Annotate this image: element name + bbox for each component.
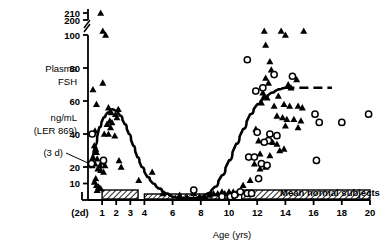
data-point-triangle <box>300 28 307 34</box>
chart-canvas: 1020406080100200210 123468101214161820 P… <box>0 0 388 245</box>
data-point-triangle <box>295 124 302 130</box>
data-point-circle <box>248 190 254 196</box>
three-days-annotation: (3 d) <box>43 147 63 158</box>
data-point-circle <box>267 131 273 137</box>
normal-subjects-label: Mean normal subjects <box>280 187 380 198</box>
data-point-triangle <box>115 106 122 112</box>
x-tick-label: 1 <box>99 207 105 218</box>
series-open-circle <box>88 57 371 200</box>
data-point-triangle <box>286 102 293 108</box>
data-point-triangle <box>93 101 100 107</box>
x-tick-label: 20 <box>365 207 376 218</box>
data-point-triangle <box>290 116 297 122</box>
data-point-triangle <box>297 117 304 123</box>
x-tick-label: 4 <box>142 207 148 218</box>
x-axis-ticks: 123468101214161820 <box>99 200 375 218</box>
data-point-triangle <box>135 177 142 183</box>
data-point-circle <box>100 157 106 163</box>
data-point-triangle <box>282 122 289 128</box>
data-point-circle <box>219 194 225 200</box>
data-point-circle <box>251 154 257 160</box>
x-tick-label: 18 <box>337 207 348 218</box>
data-point-circle <box>339 119 345 125</box>
x-tick-label: 14 <box>280 207 291 218</box>
data-point-triangle <box>111 132 118 138</box>
data-point-triangle <box>97 10 104 16</box>
data-point-circle <box>264 162 270 168</box>
data-point-triangle <box>275 93 282 99</box>
x-axis-title: Age (yrs) <box>213 229 252 240</box>
data-point-circle <box>253 88 259 94</box>
two-days-annotation: (2d) <box>71 207 88 218</box>
data-point-circle <box>365 111 371 117</box>
data-point-circle <box>274 133 280 139</box>
y-axis-units-line1: ng/mL <box>51 112 77 123</box>
data-point-circle <box>260 85 266 91</box>
data-point-triangle <box>271 102 278 108</box>
data-point-circle <box>244 57 250 63</box>
data-point-circle <box>316 119 322 125</box>
hatched-bar-infancy <box>102 190 138 199</box>
data-point-circle <box>88 161 94 167</box>
x-tick-label: 2 <box>114 207 119 218</box>
y-tick-label: 100 <box>64 30 80 41</box>
x-tick-label: 10 <box>224 207 235 218</box>
data-point-triangle <box>105 131 112 137</box>
data-point-triangle <box>116 157 123 163</box>
data-point-circle <box>313 157 319 163</box>
x-tick-label: 3 <box>128 207 133 218</box>
fitted-curve <box>91 88 332 199</box>
y-tick-label: 60 <box>69 96 80 107</box>
x-tick-label: 16 <box>308 207 319 218</box>
data-point-triangle <box>118 164 125 170</box>
y-axis-title-line1: Plasma <box>45 63 77 74</box>
data-point-triangle <box>280 101 287 107</box>
data-point-triangle <box>278 28 285 34</box>
data-point-triangle <box>251 160 258 166</box>
data-point-triangle <box>266 58 273 64</box>
data-point-triangle <box>273 112 280 118</box>
data-point-circle <box>254 129 260 135</box>
data-point-triangle <box>262 74 269 80</box>
data-point-circle <box>237 189 243 195</box>
data-point-circle <box>271 72 277 78</box>
data-point-circle <box>289 73 295 79</box>
data-point-triangle <box>266 152 273 158</box>
data-point-triangle <box>105 104 112 110</box>
data-point-circle <box>312 111 318 117</box>
data-point-triangle <box>240 182 247 188</box>
data-point-triangle <box>247 177 254 183</box>
x-tick-label: 8 <box>198 207 203 218</box>
x-tick-label: 12 <box>252 207 263 218</box>
data-point-circle <box>191 187 197 193</box>
y-axis-units-line2: (LER 869) <box>34 125 77 136</box>
data-point-triangle <box>99 79 106 85</box>
data-point-triangle <box>149 168 156 174</box>
data-point-circle <box>261 139 267 145</box>
y-tick-label: 10 <box>69 178 80 189</box>
x-tick-label: 6 <box>170 207 175 218</box>
data-point-triangle <box>89 86 96 92</box>
data-point-triangle <box>261 28 268 34</box>
series-filled-triangle <box>89 10 308 200</box>
data-point-circle <box>89 131 95 137</box>
y-axis-title-line2: FSH <box>58 76 77 87</box>
figure-plasma-fsh-vs-age: 1020406080100200210 123468101214161820 P… <box>0 0 388 245</box>
data-point-circle <box>256 175 262 181</box>
data-point-triangle <box>262 41 269 47</box>
y-tick-label: 210 <box>64 8 80 19</box>
y-tick-label: 20 <box>69 162 80 173</box>
